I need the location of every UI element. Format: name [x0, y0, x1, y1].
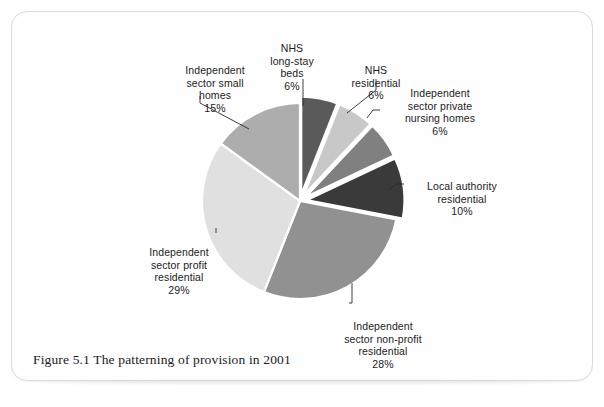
- pie-label-independent-private-nursing-homes: Independent sector private nursing homes…: [382, 75, 498, 149]
- pie-label-value: 6%: [252, 80, 332, 92]
- pie-label-text: Independent sector small homes: [185, 64, 245, 101]
- pie-label-text: Independent sector profit residential: [149, 246, 209, 283]
- pie-label-text: Independent sector private nursing homes: [405, 87, 475, 124]
- pie-label-value: 28%: [320, 358, 446, 370]
- pie-label-text: Independent sector non-profit residentia…: [344, 320, 422, 357]
- pie-label-nhs-long-stay-beds: NHS long-stay beds 6%: [252, 30, 332, 104]
- page-shadow: [22, 381, 582, 384]
- pie-label-text: NHS long-stay beds: [270, 42, 314, 79]
- pie-label-value: 6%: [382, 125, 498, 137]
- pie-label-local-authority-residential: Local authority residential 10%: [406, 168, 518, 230]
- pie-label-independent-profit-residential: Independent sector profit residential 29…: [120, 234, 238, 308]
- pie-label-value: 10%: [406, 205, 518, 217]
- figure-page: Independent sector small homes 15% NHS l…: [0, 0, 604, 407]
- pie-label-text: Local authority residential: [427, 180, 497, 204]
- figure-caption: Figure 5.1 The patterning of provision i…: [33, 352, 291, 368]
- pie-label-value: 29%: [120, 284, 238, 296]
- pie-chart: Independent sector small homes 15% NHS l…: [0, 0, 604, 340]
- pie-label-independent-non-profit-residential: Independent sector non-profit residentia…: [320, 308, 446, 382]
